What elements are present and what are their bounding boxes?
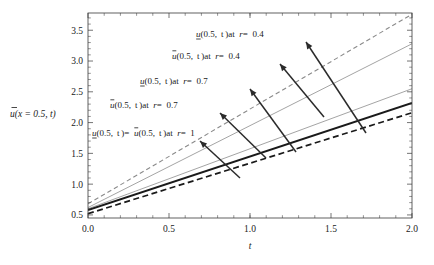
annot-upper-r04-part: = [219,51,224,61]
annot-upper-r04: u(0.5, t ) at r = 0.4 [172,51,240,61]
y-tick-label: 1.5 [71,149,83,159]
annot-r1: u(0.5, t ) = u(0.5, t ) at r = 1 [92,128,195,138]
annot-upper-r04-part: (0.5, t ) [177,51,205,61]
annot-upper-r07: u(0.5, t ) at r = 0.7 [110,100,178,110]
y-tick-label: 1.0 [71,180,83,190]
annot-upper-r04-part: at [204,51,211,61]
y-tick-label: 3.0 [71,56,83,66]
annot-r1-part: (0.5, t ) [97,128,125,138]
svg-text:u(x = 0.5, t): u(x = 0.5, t) [10,109,56,120]
x-tick-label: 2.0 [406,224,418,234]
x-tick-label: 0.5 [163,224,175,234]
annot-r1-part: at [166,128,173,138]
series-line-3 [88,103,412,210]
annot-lower-r07-part: (0.5, t ) [145,76,173,86]
y-tick-label: 0.5 [71,210,83,220]
chart-svg: 0.00.51.01.52.0 0.51.01.52.02.53.03.5 u(… [0,0,434,265]
annot-lower-r04-part: = [243,29,248,39]
y-tick-label: 2.0 [71,118,83,128]
annotation-arrow-2 [250,89,296,152]
annot-lower-r07: u(0.5, t ) at r = 0.7 [140,76,208,86]
annotation-arrowhead-0 [306,42,312,49]
annotation-arrow-0 [306,42,366,133]
x-axis-ticks: 0.00.51.01.52.0 [82,13,418,234]
annotation-arrow-1 [280,64,324,117]
annot-r1-part: = [124,128,129,138]
plot-frame [88,13,412,218]
annot-upper-r04-part: 0.4 [228,51,240,61]
series-layer [88,14,412,213]
svg-text:t: t [249,241,252,251]
annot-lower-r07-part: = [187,76,192,86]
y-axis-title: u(x = 0.5, t) [10,108,56,121]
annot-upper-r07-part: = [157,100,162,110]
x-tick-label: 1.5 [325,224,337,234]
annot-lower-r04: u(0.5, t ) at r = 0.4 [196,29,264,39]
annot-lower-r04-part: 0.4 [252,29,264,39]
annot-lower-r04-part: (0.5, t ) [201,29,229,39]
annot-r1-part: = [181,128,186,138]
x-axis-title: t [249,241,252,251]
series-line-1 [88,44,412,208]
y-tick-label: 2.5 [71,87,83,97]
annot-lower-r04-part: at [228,29,235,39]
annot-r1-part: 1 [190,128,195,138]
annot-upper-r07-part: (0.5, t ) [115,100,143,110]
annot-lower-r07-part: at [172,76,179,86]
annot-lower-r07-part: 0.7 [196,76,208,86]
annot-upper-r07-part: 0.7 [166,100,178,110]
x-tick-label: 0.0 [82,224,94,234]
annot-upper-r07-part: at [142,100,149,110]
annotation-arrowhead-2 [250,89,257,96]
y-tick-label: 3.5 [71,26,83,36]
annotation-labels: u(0.5, t ) at r = 0.4u(0.5, t ) at r = 0… [92,29,264,138]
annot-r1-part: (0.5, t ) [138,128,166,138]
x-tick-label: 1.0 [244,224,256,234]
chart-figure: 0.00.51.01.52.0 0.51.01.52.02.53.03.5 u(… [0,0,434,265]
